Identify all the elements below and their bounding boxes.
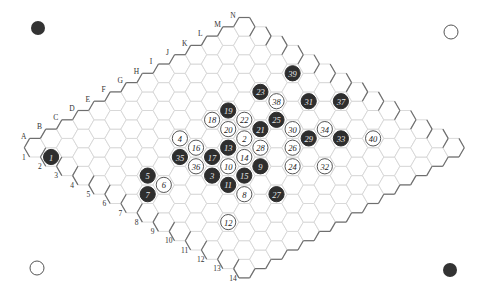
stone-move-32: 32 [317,159,332,174]
move-number: 9 [258,162,263,172]
board-cells [24,18,464,278]
move-number: 15 [240,171,249,181]
stone-move-1: 1 [44,149,59,164]
column-label-K: K [182,39,188,48]
stone-move-11: 11 [221,177,236,192]
move-number: 21 [256,125,265,135]
stone-move-26: 26 [285,140,300,155]
stone-move-5: 5 [140,168,155,183]
stone-move-37: 37 [333,94,348,109]
stone-move-15: 15 [237,168,252,183]
row-label-2: 2 [38,162,42,171]
corner-marker-top-right [444,25,458,39]
column-label-C: C [53,113,58,122]
stone-move-40: 40 [366,131,381,146]
stone-move-29: 29 [301,131,316,146]
stone-move-8: 8 [237,187,252,202]
stone-move-4: 4 [172,131,187,146]
stone-move-14: 14 [237,149,252,164]
corner-marker-bottom-right [443,263,457,277]
column-label-L: L [198,29,203,38]
column-label-H: H [134,67,140,76]
move-number: 35 [175,153,185,163]
column-label-I: I [150,57,153,66]
move-number: 10 [224,162,233,172]
move-number: 7 [146,190,151,200]
corner-marker-top-left [31,21,45,35]
move-number: 6 [162,180,167,190]
row-label-14: 14 [229,274,237,283]
move-number: 3 [209,171,214,181]
column-label-N: N [230,11,236,20]
move-number: 24 [288,162,297,172]
stone-move-30: 30 [285,122,300,137]
move-number: 31 [303,97,313,107]
column-label-J: J [166,48,169,57]
stone-move-10: 10 [221,159,236,174]
stone-move-21: 21 [253,122,268,137]
row-label-6: 6 [103,199,107,208]
move-number: 40 [369,134,378,144]
move-number: 8 [242,190,247,200]
move-number: 19 [224,106,233,116]
stone-move-34: 34 [317,122,332,137]
move-number: 25 [272,115,281,125]
stone-move-3: 3 [205,168,220,183]
row-label-1: 1 [22,153,26,162]
column-label-E: E [85,95,90,104]
row-label-12: 12 [197,255,205,264]
move-number: 28 [256,143,265,153]
stone-move-33: 33 [333,131,348,146]
move-number: 1 [49,153,53,163]
stone-move-31: 31 [301,94,316,109]
move-number: 32 [320,162,330,172]
stone-move-39: 39 [285,66,300,81]
move-number: 30 [287,125,297,135]
row-label-5: 5 [86,190,90,199]
row-label-10: 10 [165,236,173,245]
column-label-M: M [214,20,221,29]
move-number: 23 [256,87,265,97]
stone-move-17: 17 [205,149,220,164]
corner-marker-bottom-left [30,261,44,275]
stone-move-19: 19 [221,103,236,118]
move-number: 22 [240,115,249,125]
row-label-7: 7 [119,209,123,218]
stone-move-24: 24 [285,159,300,174]
stone-move-36: 36 [188,159,203,174]
row-label-3: 3 [54,171,58,180]
move-number: 5 [146,171,150,181]
row-label-8: 8 [135,218,139,227]
column-label-B: B [37,122,42,131]
column-label-F: F [102,85,106,94]
column-label-D: D [69,104,75,113]
move-number: 4 [178,134,183,144]
column-label-G: G [118,76,124,85]
row-label-9: 9 [151,227,155,236]
move-number: 2 [242,134,247,144]
hex-board: ABCDEFGHIJKLMN1234567891011121314 123456… [0,0,486,300]
move-number: 17 [208,153,217,163]
move-number: 13 [224,143,233,153]
stone-move-38: 38 [269,94,284,109]
stone-move-23: 23 [253,84,268,99]
stone-move-28: 28 [253,140,268,155]
move-number: 14 [240,153,249,163]
stone-move-20: 20 [221,122,236,137]
stone-move-22: 22 [237,112,252,127]
move-number: 26 [288,143,297,153]
move-number: 27 [272,190,281,200]
move-number: 39 [287,69,297,79]
stone-move-13: 13 [221,140,236,155]
stone-move-27: 27 [269,187,284,202]
hex-game-diagram: ABCDEFGHIJKLMN1234567891011121314 123456… [0,0,486,300]
move-number: 34 [320,125,330,135]
stone-move-25: 25 [269,112,284,127]
move-number: 29 [304,134,313,144]
row-label-4: 4 [70,181,74,190]
row-label-13: 13 [213,264,221,273]
move-number: 38 [271,97,281,107]
move-number: 20 [224,125,233,135]
stone-move-6: 6 [156,177,171,192]
stone-move-16: 16 [188,140,203,155]
